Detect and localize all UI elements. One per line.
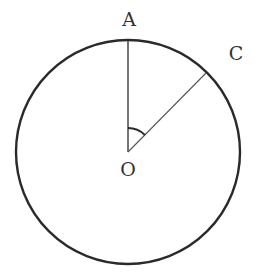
label-a: A <box>121 8 136 30</box>
radius-oc <box>128 73 206 152</box>
angle-aoc-arc <box>128 128 145 135</box>
label-o: O <box>120 158 136 180</box>
label-c: C <box>229 42 244 64</box>
circle-diagram: A C O <box>0 0 257 276</box>
